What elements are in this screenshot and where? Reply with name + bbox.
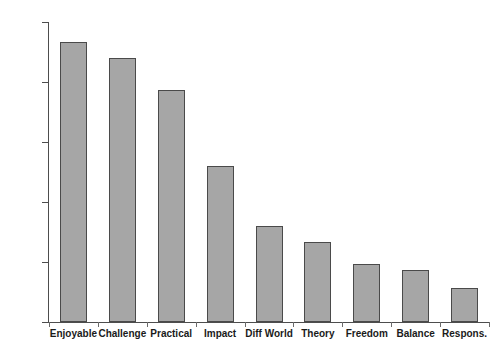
bar (402, 270, 429, 322)
x-axis-tick-label: Impact (196, 327, 245, 340)
x-axis-tick-label: Enjoyable (49, 327, 98, 340)
bar (353, 264, 380, 322)
x-axis-tick-label: Theory (293, 327, 342, 340)
bar (207, 166, 234, 322)
bar (451, 288, 478, 322)
bar (60, 42, 87, 322)
bar (304, 242, 331, 322)
x-axis-tick-label: Freedom (342, 327, 391, 340)
x-axis-tick-label: Respons. (440, 327, 489, 340)
bar (256, 226, 283, 322)
bar-chart: 01530456075 EnjoyableChallengePracticalI… (0, 0, 497, 360)
bars-layer (0, 0, 497, 360)
x-axis-tick-label: Challenge (98, 327, 147, 340)
x-axis-tick-label: Balance (391, 327, 440, 340)
x-axis-tick-label: Practical (147, 327, 196, 340)
bar (109, 58, 136, 322)
x-axis-tick-label: Diff World (245, 327, 294, 340)
bar (158, 90, 185, 322)
